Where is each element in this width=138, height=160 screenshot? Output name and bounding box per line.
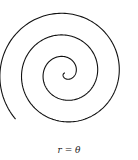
equation-caption: r = θ (0, 145, 138, 155)
spiral-plot (0, 0, 138, 145)
spiral-curve (0, 13, 119, 122)
